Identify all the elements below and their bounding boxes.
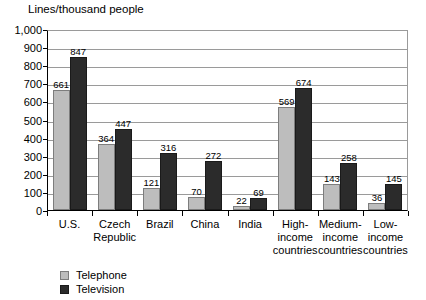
y-tick-label: 300 (0, 151, 42, 162)
y-tick-label: 1,000 (0, 25, 42, 36)
bar-television-3 (205, 161, 222, 210)
bar-telephone-0 (53, 90, 70, 210)
y-axis: 1,0009008007006005004003002001000 (0, 30, 42, 211)
bar-television-2 (160, 153, 177, 210)
x-tick-mark (363, 211, 364, 216)
bar-value-label: 258 (333, 153, 364, 163)
bars-layer: 6618473644471213167027222695696741432583… (47, 30, 408, 211)
bar-television-7 (385, 184, 402, 210)
bar-value-label: 674 (288, 78, 319, 88)
bar-telephone-6 (323, 184, 340, 210)
bar-value-label: 272 (198, 151, 229, 161)
y-tick-label: 700 (0, 79, 42, 90)
y-tick-label: 0 (0, 206, 42, 217)
bar-telephone-4 (233, 206, 250, 210)
y-axis-title: Lines/thousand people (28, 3, 144, 16)
legend-item-television: Television (60, 282, 127, 296)
x-tick-mark (182, 211, 183, 216)
bar-value-label: 69 (243, 188, 274, 198)
legend-item-telephone: Telephone (60, 268, 127, 282)
x-tick-mark (273, 211, 274, 216)
bar-television-4 (250, 198, 267, 210)
x-tick-mark (318, 211, 319, 216)
bar-television-0 (70, 57, 87, 210)
legend-swatch-icon (60, 271, 69, 280)
chart-legend: TelephoneTelevision (60, 268, 127, 296)
y-tick-label: 900 (0, 43, 42, 54)
y-tick-label: 400 (0, 133, 42, 144)
y-tick-label: 100 (0, 187, 42, 198)
bar-television-1 (115, 129, 132, 210)
x-tick-mark (47, 211, 48, 216)
legend-swatch-icon (60, 285, 69, 294)
x-tick-mark (92, 211, 93, 216)
legend-label: Television (76, 283, 124, 295)
y-tick-label: 500 (0, 115, 42, 126)
y-tick-label: 600 (0, 97, 42, 108)
bar-telephone-7 (368, 203, 385, 210)
bar-value-label: 447 (108, 119, 139, 129)
bar-chart-figure: Lines/thousand people 1,0009008007006005… (0, 0, 426, 300)
y-tick-label: 800 (0, 61, 42, 72)
bar-telephone-1 (98, 144, 115, 210)
bar-telephone-3 (188, 197, 205, 210)
bar-telephone-5 (278, 107, 295, 210)
bar-telephone-2 (143, 188, 160, 210)
y-tick-label: 200 (0, 169, 42, 180)
bar-television-5 (295, 88, 312, 210)
x-tick-mark (137, 211, 138, 216)
legend-label: Telephone (76, 269, 127, 281)
bar-television-6 (340, 163, 357, 210)
x-tick-mark (228, 211, 229, 216)
x-tick-mark (408, 211, 409, 216)
x-axis-label-7: Low- income countries (357, 218, 414, 257)
bar-value-label: 145 (378, 174, 409, 184)
bar-value-label: 316 (153, 143, 184, 153)
x-axis: U.S.Czech RepublicBrazilChinaIndiaHigh- … (47, 218, 408, 264)
bar-value-label: 847 (63, 47, 94, 57)
